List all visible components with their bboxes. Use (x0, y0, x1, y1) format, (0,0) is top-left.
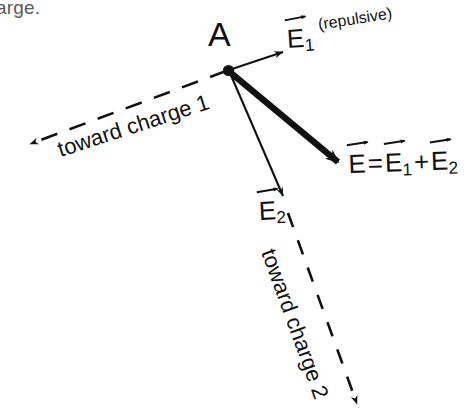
electric-field-vector-diagram: arge. A E1 (repulsive) E=E1+E2 E2 toward… (0, 0, 464, 418)
e2-term-symbol: E (430, 146, 448, 177)
e2-subscript: 2 (276, 207, 287, 227)
vector-e-resultant (231, 73, 338, 162)
vector-arrow-tip-icon (274, 186, 280, 191)
vector-arrow-tip-icon (301, 14, 307, 19)
vector-e2-label: E2 (258, 197, 286, 228)
vector-arrow-tip-icon (446, 137, 452, 142)
resultant-equation-label: E=E1+E2 (348, 147, 458, 180)
point-a-label: A (208, 17, 231, 51)
point-a-dot (223, 65, 234, 76)
e1-term-with-arrow: E (385, 149, 403, 176)
e-symbol-with-arrow: E (348, 150, 366, 177)
e1-term-symbol: E (384, 147, 402, 178)
vector-arrow-tip-icon (364, 140, 370, 145)
vector-e1 (229, 52, 283, 70)
e2-term-subscript: 2 (448, 157, 458, 177)
vector-diagram-canvas (0, 0, 464, 418)
vector-arrow-tip-icon (400, 138, 406, 143)
e1-subscript: 1 (304, 34, 315, 55)
cropped-caption-text: arge. (0, 0, 40, 17)
e-symbol: E (348, 148, 366, 179)
e1-symbol-with-arrow: E (286, 25, 305, 52)
vector-e1-label: E1 (286, 24, 315, 55)
equals-sign: = (365, 148, 385, 179)
e2-term-with-arrow: E (431, 148, 449, 175)
e1-symbol: E (286, 23, 305, 54)
plus-sign: + (411, 146, 431, 177)
e2-symbol-with-arrow: E (258, 197, 277, 224)
e2-symbol: E (258, 195, 277, 226)
